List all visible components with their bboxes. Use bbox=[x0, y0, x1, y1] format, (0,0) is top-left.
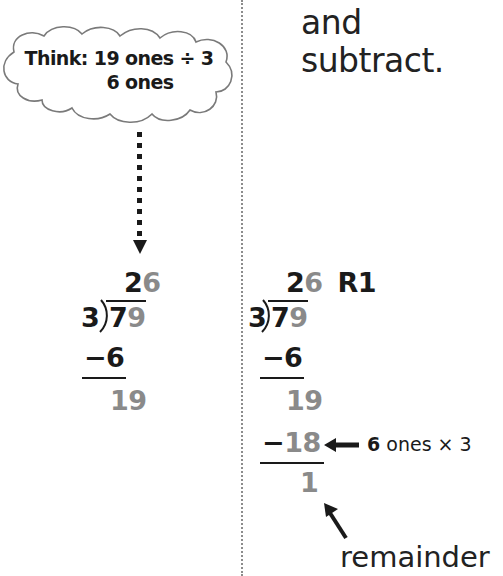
left-remainder-step: 19 bbox=[110, 386, 147, 416]
right-bring-down: 19 bbox=[286, 386, 323, 416]
left-subtract-1: −6 bbox=[84, 343, 124, 373]
left-quotient: 26 bbox=[124, 268, 161, 298]
right-dividend: 79 bbox=[271, 303, 308, 333]
right-quotient-tens: 2 bbox=[286, 267, 304, 298]
diagonal-arrow-icon bbox=[322, 503, 352, 541]
right-quotient: 26 R1 bbox=[286, 268, 376, 298]
instruction-line-1: and bbox=[301, 4, 362, 42]
right-subtract-2: −18 bbox=[262, 428, 321, 458]
right-subtract-1: −6 bbox=[262, 343, 302, 373]
right-dividend-tens: 7 bbox=[271, 302, 289, 333]
left-quotient-tens: 2 bbox=[124, 267, 142, 298]
instruction-line-2: subtract. bbox=[301, 42, 444, 80]
right-subtract-rule-1 bbox=[260, 377, 304, 379]
product-annotation-bold: 6 bbox=[367, 433, 380, 455]
think-line-1: Think: 19 ones ÷ 3 bbox=[8, 46, 230, 70]
left-dividend: 79 bbox=[109, 303, 146, 333]
think-line-2: 6 ones bbox=[70, 70, 210, 94]
dotted-down-arrow-icon bbox=[132, 132, 148, 256]
product-annotation-rest: ones × 3 bbox=[380, 433, 471, 455]
right-final-remainder: 1 bbox=[300, 468, 318, 498]
remainder-label: remainder bbox=[340, 540, 490, 574]
left-arrow-icon bbox=[324, 437, 360, 453]
product-annotation: 6 ones × 3 bbox=[367, 433, 472, 455]
right-dividend-ones: 9 bbox=[289, 302, 307, 333]
column-divider bbox=[241, 0, 243, 576]
left-quotient-ones: 6 bbox=[142, 267, 160, 298]
left-dividend-ones: 9 bbox=[127, 302, 145, 333]
left-dividend-tens: 7 bbox=[109, 302, 127, 333]
right-subtract-rule-2 bbox=[260, 462, 324, 464]
right-remainder-label: R1 bbox=[338, 267, 377, 298]
right-subtract-2-value: 18 bbox=[284, 427, 321, 458]
left-divisor: 3 bbox=[81, 303, 99, 333]
right-quotient-ones: 6 bbox=[304, 267, 322, 298]
right-subtract-2-minus: − bbox=[262, 427, 284, 458]
right-divisor: 3 bbox=[248, 303, 266, 333]
left-subtract-rule bbox=[82, 377, 126, 379]
